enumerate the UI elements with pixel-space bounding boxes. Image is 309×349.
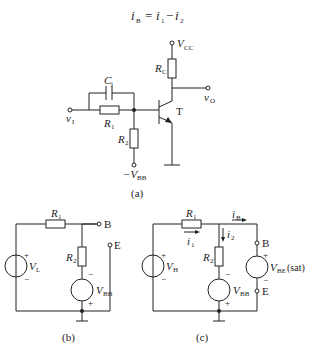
svg-text:I: I (72, 118, 75, 126)
svg-text:(a): (a) (131, 187, 144, 200)
svg-text:i: i (227, 228, 230, 240)
svg-text:v: v (204, 91, 209, 103)
svg-text:2: 2 (180, 17, 184, 25)
svg-text:1: 1 (193, 213, 197, 221)
svg-text:i: i (232, 208, 235, 220)
svg-text:O: O (210, 97, 215, 105)
svg-text:R: R (103, 117, 111, 129)
resistor-rc (168, 59, 176, 78)
svg-text:i: i (175, 8, 179, 23)
svg-text:R: R (154, 62, 162, 74)
resistor-r2 (130, 129, 138, 148)
svg-text:2: 2 (210, 257, 214, 265)
equation: i B = i 1 − i 2 (131, 8, 184, 25)
svg-text:BB: BB (240, 290, 250, 298)
svg-text:i: i (156, 8, 160, 23)
svg-text:B: B (104, 218, 111, 230)
svg-text:2: 2 (73, 257, 77, 265)
svg-text:BB: BB (103, 290, 113, 298)
svg-text:2: 2 (125, 139, 129, 147)
svg-text:R: R (65, 251, 73, 263)
svg-text:E: E (114, 239, 121, 251)
svg-text:−: − (166, 8, 173, 23)
svg-text:BE: BE (277, 267, 286, 275)
svg-text:+: + (225, 298, 230, 308)
svg-text:H: H (173, 266, 178, 274)
circuit-diagram: i B = i 1 − i 2 V CC R C v O T v I R (0, 0, 309, 349)
svg-text:B: B (136, 17, 141, 25)
svg-text:i: i (187, 235, 190, 247)
svg-text:i: i (131, 8, 135, 23)
svg-text:(b): (b) (62, 331, 75, 344)
svg-text:R: R (185, 207, 193, 219)
svg-text:(c): (c) (196, 331, 209, 344)
svg-text:L: L (36, 266, 40, 274)
svg-text:−: − (263, 275, 268, 285)
svg-text:2: 2 (231, 234, 235, 242)
svg-text:E: E (262, 285, 269, 297)
svg-text:+: + (161, 250, 166, 260)
svg-text:+: + (24, 250, 29, 260)
svg-text:R: R (50, 207, 58, 219)
svg-text:j: j (110, 80, 113, 88)
svg-text:(sat): (sat) (287, 262, 305, 274)
svg-text:B: B (236, 214, 241, 222)
figure-a: V CC R C v O T v I R 1 C j (66, 37, 215, 200)
svg-text:1: 1 (161, 17, 165, 25)
svg-text:T: T (176, 105, 183, 117)
svg-text:+: + (263, 250, 268, 260)
svg-text:CC: CC (184, 44, 194, 52)
svg-text:1: 1 (58, 213, 62, 221)
figure-b: B R 1 + − V L R 2 − + V BB E (b) (5, 207, 121, 344)
svg-text:−: − (225, 269, 230, 279)
svg-text:BB: BB (137, 174, 147, 182)
svg-text:+: + (88, 298, 93, 308)
svg-text:1: 1 (191, 241, 195, 249)
svg-text:−: − (88, 269, 93, 279)
svg-text:B: B (262, 237, 269, 249)
svg-text:−: − (161, 274, 166, 284)
svg-text:=: = (145, 8, 152, 23)
figure-c: R 1 i 1 i B + − V H i 2 R 2 − + V BB B (142, 207, 305, 344)
svg-text:C: C (162, 68, 167, 76)
circuit-figure: i B = i 1 − i 2 V CC R C v O T v I R (0, 0, 309, 349)
svg-text:R: R (202, 251, 210, 263)
svg-text:v: v (66, 112, 71, 124)
resistor-r1 (100, 106, 119, 114)
svg-text:−: − (24, 274, 29, 284)
svg-text:1: 1 (111, 123, 115, 131)
svg-text:R: R (117, 133, 125, 145)
